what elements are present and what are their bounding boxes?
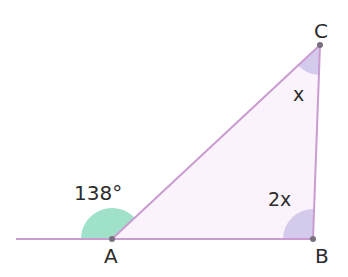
angle-label-2x: 2x [268,190,291,209]
vertex-label-c: C [314,21,328,41]
vertex-label-b: B [315,246,329,266]
angle-label-x: x [293,85,304,104]
vertex-a-point [109,236,115,242]
vertex-b-point [310,236,316,242]
triangle-diagram [0,0,348,277]
vertex-label-a: A [104,246,118,266]
angle-label-138: 138° [74,183,122,203]
